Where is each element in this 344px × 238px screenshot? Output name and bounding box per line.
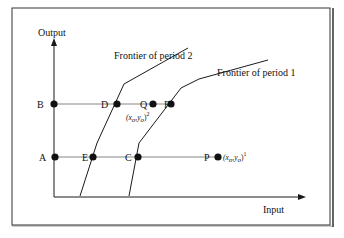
- point-A-label: A: [39, 152, 47, 163]
- point-E: [89, 153, 96, 160]
- p-observation-label: (xo,yo)1: [223, 151, 247, 164]
- y-axis: [51, 38, 57, 197]
- frontier-period-2-label: Frontier of period 2: [114, 50, 193, 61]
- outer-frame: [12, 8, 330, 225]
- point-Q-label: Q: [140, 99, 148, 110]
- point-C-label: C: [125, 152, 132, 163]
- point-C: [134, 153, 141, 160]
- q-observation-label: (xo,yo)2: [126, 111, 150, 124]
- frontier-period-1: [129, 60, 268, 196]
- point-A: [51, 153, 58, 160]
- point-D-label: D: [101, 99, 108, 110]
- point-D: [113, 100, 120, 107]
- point-B-label: B: [37, 99, 44, 110]
- malmquist-frontier-diagram: Output Input Frontier of period 2 Fronti…: [0, 0, 344, 238]
- x-axis-arrow-icon: [298, 194, 306, 200]
- point-P: [214, 153, 221, 160]
- point-Q: [149, 100, 156, 107]
- point-B: [50, 100, 57, 107]
- point-F-label: F: [164, 99, 170, 110]
- point-E-label: E: [82, 152, 88, 163]
- point-P-label: P: [204, 152, 210, 163]
- y-axis-arrow-icon: [51, 38, 57, 46]
- x-axis-label: Input: [263, 204, 284, 215]
- x-axis: [54, 194, 306, 200]
- y-axis-label: Output: [38, 27, 66, 38]
- frontier-period-1-label: Frontier of period 1: [217, 67, 296, 78]
